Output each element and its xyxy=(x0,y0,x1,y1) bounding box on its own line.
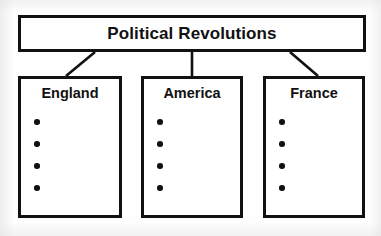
child-node-label-america: America xyxy=(144,86,240,102)
bullet-point xyxy=(34,185,40,191)
bullet-point xyxy=(279,163,285,169)
bullet-list-france xyxy=(279,119,285,207)
bullet-point xyxy=(157,119,163,125)
root-node-political-revolutions[interactable]: Political Revolutions xyxy=(18,15,366,52)
bullet-point xyxy=(279,185,285,191)
bullet-point xyxy=(279,141,285,147)
bullet-point xyxy=(157,141,163,147)
bullet-list-england xyxy=(34,119,40,207)
connector-line-england xyxy=(66,52,95,76)
child-node-label-england: England xyxy=(21,86,119,102)
bullet-point xyxy=(34,119,40,125)
bullet-list-america xyxy=(157,119,163,207)
bullet-point xyxy=(34,141,40,147)
child-node-england[interactable]: England xyxy=(18,76,122,218)
root-node-label: Political Revolutions xyxy=(107,25,276,42)
child-node-label-france: France xyxy=(266,86,362,102)
bullet-point xyxy=(34,163,40,169)
child-node-america[interactable]: America xyxy=(141,76,243,218)
child-node-france[interactable]: France xyxy=(263,76,365,218)
bullet-point xyxy=(157,163,163,169)
bullet-point xyxy=(157,185,163,191)
diagram-canvas: Political Revolutions England America Fr… xyxy=(0,0,381,236)
connector-line-france xyxy=(290,52,318,76)
bullet-point xyxy=(279,119,285,125)
